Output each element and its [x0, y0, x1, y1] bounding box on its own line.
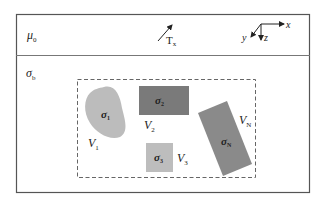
anomaly-3-volume: V3	[177, 151, 188, 167]
anomaly-2-volume: V2	[144, 118, 155, 134]
diagram-canvas: μ0 Tx x y z σb σ1 V1 σ2 V2 σ3 V3	[0, 0, 326, 216]
x-axis-label: x	[285, 19, 291, 30]
earth-layer-label: σb	[26, 66, 36, 82]
z-axis-label: z	[263, 32, 268, 43]
anomaly-n-volume: VN	[239, 113, 251, 129]
anomaly-2-shape	[139, 86, 189, 115]
y-axis-label: y	[241, 32, 247, 43]
air-layer-label: μ0	[26, 28, 37, 44]
anomaly-1-volume: V1	[88, 136, 99, 152]
transmitter-label: Tx	[166, 34, 177, 48]
